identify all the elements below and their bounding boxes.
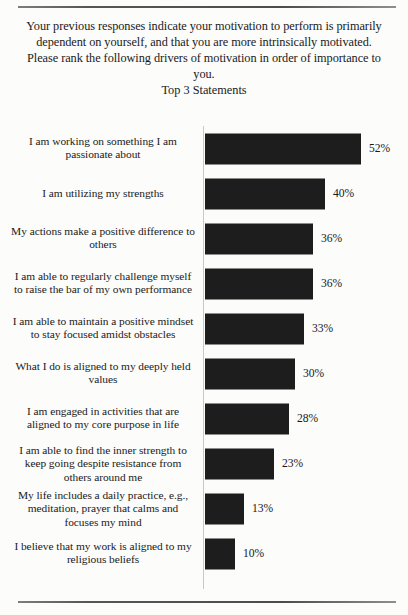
bar-category-label: My life includes a daily practice, e.g.,… (10, 488, 196, 529)
bar-category-label: I am utilizing my strengths (10, 187, 196, 201)
bar-category-label: I am able to maintain a positive mindset… (10, 315, 196, 342)
bar-value-label: 10% (243, 548, 264, 560)
bar-value-label: 52% (369, 143, 390, 155)
bar-row: I believe that my work is aligned to my … (0, 531, 408, 576)
bar-row: My actions make a positive difference to… (0, 216, 408, 261)
bar-track: 33% (205, 313, 333, 344)
bar-track: 52% (205, 133, 390, 164)
bar-value-label: 28% (297, 413, 318, 425)
bar-fill (205, 133, 361, 164)
bar-track: 28% (205, 403, 318, 434)
bar-track: 36% (205, 268, 342, 299)
top-divider-rule (18, 6, 396, 8)
bar-category-label: I am working on something I am passionat… (10, 135, 196, 162)
bar-track: 36% (205, 223, 342, 254)
bar-fill (205, 448, 274, 479)
bar-category-label: I believe that my work is aligned to my … (10, 540, 196, 567)
bar-row: I am engaged in activities that are alig… (0, 396, 408, 441)
bar-fill (205, 178, 325, 209)
intro-paragraph: Your previous responses indicate your mo… (26, 18, 382, 82)
bar-track: 13% (205, 493, 273, 524)
bar-row: I am able to find the inner strength to … (0, 441, 408, 486)
bar-value-label: 30% (303, 368, 324, 380)
bar-row: I am working on something I am passionat… (0, 126, 408, 171)
document-page: Your previous responses indicate your mo… (0, 0, 408, 615)
bar-row: I am able to maintain a positive mindset… (0, 306, 408, 351)
bar-track: 40% (205, 178, 354, 209)
bar-value-label: 23% (282, 458, 303, 470)
bar-track: 10% (205, 538, 264, 569)
chart-subtitle: Top 3 Statements (26, 82, 382, 98)
bar-value-label: 40% (333, 188, 354, 200)
page-header: Your previous responses indicate your mo… (26, 18, 382, 98)
bar-fill (205, 538, 235, 569)
bar-value-label: 36% (321, 233, 342, 245)
bar-value-label: 33% (312, 323, 333, 335)
bar-row: I am utilizing my strengths40% (0, 171, 408, 216)
bar-row: I am able to regularly challenge myself … (0, 261, 408, 306)
bar-fill (205, 313, 304, 344)
bar-row: What I do is aligned to my deeply held v… (0, 351, 408, 396)
bar-row: My life includes a daily practice, e.g.,… (0, 486, 408, 531)
bar-fill (205, 358, 295, 389)
bar-fill (205, 223, 313, 254)
horizontal-bar-chart: I am working on something I am passionat… (0, 126, 408, 596)
bar-category-label: I am able to find the inner strength to … (10, 443, 196, 484)
bar-category-label: I am engaged in activities that are alig… (10, 405, 196, 432)
bar-value-label: 13% (252, 503, 273, 515)
bar-value-label: 36% (321, 278, 342, 290)
bottom-divider-rule (18, 601, 396, 603)
bar-fill (205, 403, 289, 434)
bar-category-label: What I do is aligned to my deeply held v… (10, 360, 196, 387)
bar-track: 30% (205, 358, 324, 389)
bar-category-label: I am able to regularly challenge myself … (10, 270, 196, 297)
bar-fill (205, 493, 244, 524)
bar-category-label: My actions make a positive difference to… (10, 225, 196, 252)
bar-fill (205, 268, 313, 299)
bar-track: 23% (205, 448, 303, 479)
